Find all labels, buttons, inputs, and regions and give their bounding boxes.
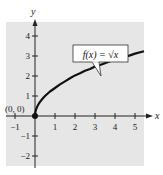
origin-point-marker <box>32 113 38 119</box>
x-axis-label: x <box>154 110 160 121</box>
svg-text:4: 4 <box>26 31 31 41</box>
svg-text:−1: −1 <box>20 131 30 141</box>
chart: x y −1 1 2 3 4 5 4 3 2 1 −1 −2 ( <box>0 0 163 175</box>
svg-text:3: 3 <box>26 51 31 61</box>
svg-text:1: 1 <box>53 122 58 132</box>
x-axis-arrow-icon <box>146 114 153 119</box>
function-label: f(x) = √x <box>83 49 119 61</box>
svg-text:2: 2 <box>26 71 31 81</box>
svg-text:5: 5 <box>133 122 138 132</box>
svg-text:−2: −2 <box>20 151 30 161</box>
svg-text:3: 3 <box>93 122 98 132</box>
svg-text:−1: −1 <box>10 122 20 132</box>
svg-text:2: 2 <box>73 122 78 132</box>
svg-text:1: 1 <box>26 91 31 101</box>
svg-text:4: 4 <box>113 122 118 132</box>
origin-point-label: (0, 0) <box>5 104 25 114</box>
y-axis-label: y <box>30 6 36 17</box>
